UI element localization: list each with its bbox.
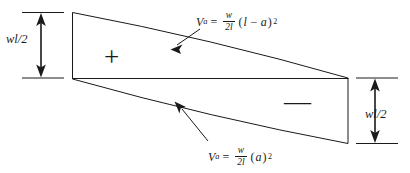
lower-formula-fraction: w 2l: [235, 146, 247, 167]
lower-formula-leader-line: [182, 109, 208, 141]
upper-formula-arrowhead: [171, 45, 183, 55]
positive-region-sign: +: [104, 44, 119, 71]
lower-shear-formula: Va = w 2l (a)2: [208, 146, 272, 167]
upper-formula-equals: =: [211, 16, 218, 28]
upper-formula-fraction: w 2l: [223, 11, 235, 32]
upper-formula-denominator: 2l: [224, 22, 233, 32]
left-dimension-label: wl/2: [6, 33, 28, 46]
lower-formula-expression: a: [255, 151, 261, 163]
lower-formula-open-paren: (: [250, 151, 254, 163]
lower-formula-numerator: w: [237, 146, 245, 156]
lower-formula-equals: =: [223, 151, 230, 163]
upper-formula-numerator: w: [225, 11, 233, 21]
lower-formula-denominator: 2l: [236, 157, 245, 167]
lower-formula-close-paren: ): [262, 151, 266, 163]
upper-formula-open-paren: (: [238, 16, 242, 28]
lower-formula-exponent: 2: [268, 153, 272, 161]
right-dimension-label: wl/2: [365, 108, 387, 121]
lower-formula-subscript: a: [215, 152, 219, 161]
upper-formula-subscript: a: [203, 17, 207, 26]
upper-formula-exponent: 2: [273, 18, 277, 26]
upper-formula-expression: l − a: [243, 16, 266, 28]
upper-formula-variable: V: [196, 16, 203, 28]
upper-formula-close-paren: ): [268, 16, 272, 28]
shear-force-diagram-figure: wl/2 wl/2 + — Va = w 2l (l − a)2 Va = w …: [0, 0, 410, 173]
negative-region-sign: —: [284, 88, 311, 115]
lower-formula-variable: V: [208, 151, 215, 163]
upper-shear-formula: Va = w 2l (l − a)2: [196, 11, 277, 32]
